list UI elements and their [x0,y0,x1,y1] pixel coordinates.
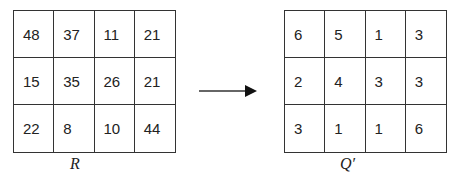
matrix-r-cell: 22 [14,105,54,152]
matrix-q-prime-cell: 5 [325,11,365,58]
matrix-q-prime-cell: 1 [366,105,406,152]
matrix-q-prime-cell: 1 [366,11,406,58]
matrix-q-prime: 6 5 1 3 2 4 3 3 3 1 1 6 [284,10,447,153]
matrix-q-prime-cell: 4 [325,58,365,105]
matrix-r-cell: 35 [54,58,94,105]
matrix-r-cell: 48 [14,11,54,58]
matrix-q-prime-cell: 6 [285,11,325,58]
arrow-right-icon [197,84,261,98]
matrix-q-prime-cell: 6 [406,105,446,152]
matrix-r-cell: 37 [54,11,94,58]
matrix-r-cell: 21 [135,11,175,58]
matrix-r-cell: 10 [95,105,135,152]
matrix-q-prime-cell: 2 [285,58,325,105]
matrix-r-cell: 21 [135,58,175,105]
matrix-q-prime-cell: 3 [406,58,446,105]
matrix-q-prime-cell: 3 [285,105,325,152]
matrix-q-prime-label: Q′ [340,155,355,173]
matrix-q-prime-cell: 3 [406,11,446,58]
matrix-r-label: R [70,155,80,173]
matrix-q-prime-cell: 3 [366,58,406,105]
matrix-r-cell: 26 [95,58,135,105]
matrix-q-prime-cell: 1 [325,105,365,152]
matrix-r-cell: 15 [14,58,54,105]
matrix-r-cell: 8 [54,105,94,152]
matrix-r-cell: 11 [95,11,135,58]
matrix-r: 48 37 11 21 15 35 26 21 22 8 10 44 [13,10,176,153]
matrix-r-cell: 44 [135,105,175,152]
